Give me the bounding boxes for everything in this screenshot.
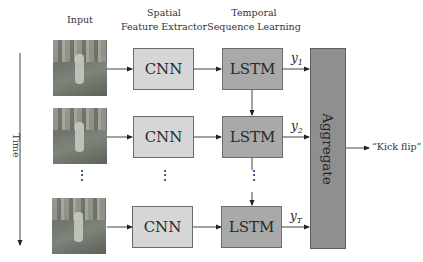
lstm-box-t: LSTM [221, 206, 282, 248]
lstm-box-2: LSTM [222, 116, 283, 158]
cnn-box-1: CNN [133, 48, 194, 90]
input-ellipsis: ⋮ [75, 172, 85, 178]
output-yt: yT [290, 209, 302, 225]
aggregate-label: Aggregate [320, 113, 336, 185]
ellipsis-glyph: ⋮ [158, 167, 172, 183]
output-y1: y1 [291, 51, 303, 67]
cnn-label: CNN [145, 60, 183, 78]
cnn-label: CNN [144, 218, 182, 236]
output-y2: y2 [291, 119, 303, 135]
output-sub: 1 [298, 58, 303, 67]
cnn-box-t: CNN [132, 206, 193, 248]
prediction-label: “Kick flip” [372, 141, 421, 152]
output-sub: 2 [298, 126, 303, 135]
output-var: y [291, 51, 298, 65]
lstm-label: LSTM [230, 128, 276, 146]
time-axis-label: Time [11, 133, 22, 157]
lstm-ellipsis: ⋮ [247, 172, 257, 178]
output-sub: T [297, 216, 302, 225]
ellipsis-glyph: ⋮ [75, 167, 89, 183]
output-var: y [291, 119, 298, 133]
lstm-box-1: LSTM [222, 48, 283, 90]
input-frame-1 [53, 40, 107, 96]
cnn-ellipsis: ⋮ [158, 172, 168, 178]
cnn-label: CNN [145, 128, 183, 146]
ellipsis-glyph: ⋮ [247, 167, 261, 183]
cnn-box-2: CNN [133, 116, 194, 158]
lstm-label: LSTM [230, 60, 276, 78]
aggregate-box: Aggregate [310, 48, 346, 249]
input-frame-2 [53, 108, 107, 164]
output-var: y [290, 209, 297, 223]
input-frame-t [52, 198, 106, 254]
lstm-label: LSTM [229, 218, 275, 236]
